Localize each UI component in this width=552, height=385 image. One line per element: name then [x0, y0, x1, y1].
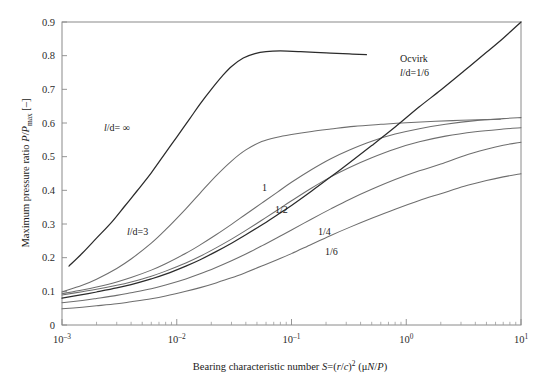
- y-tick-label-2: 0.2: [42, 252, 55, 263]
- curve-series-6: [62, 174, 521, 309]
- curve-series-5: [62, 142, 521, 303]
- curve-series-3: [62, 128, 521, 295]
- y-tick-label-8: 0.8: [42, 50, 55, 61]
- ann-1: 1: [262, 182, 267, 193]
- chart-canvas: 00.10.20.30.40.50.60.70.80.910–310–210–1…: [0, 0, 552, 385]
- ann-1-4: 1/4: [318, 226, 331, 237]
- y-tick-label-4: 0.4: [42, 185, 56, 196]
- ann-1-6: 1/6: [325, 246, 338, 257]
- x-tick-label-3: 100: [399, 332, 414, 346]
- curves-group: [62, 22, 521, 309]
- x-tick-label-4: 101: [514, 332, 529, 346]
- ann-1-2: 1/2: [275, 204, 288, 215]
- y-tick-label-3: 0.3: [42, 219, 55, 230]
- y-tick-label-9: 0.9: [42, 17, 55, 28]
- figure-container: 00.10.20.30.40.50.60.70.80.910–310–210–1…: [0, 0, 552, 385]
- y-tick-label-6: 0.6: [42, 118, 55, 129]
- ann-ocvirk: Ocvirk: [400, 53, 428, 64]
- y-axis-title: Maximum pressure ratio P/Pmax [–]: [20, 98, 34, 247]
- ann-ld-3: l/d=3: [127, 226, 148, 237]
- x-tick-label-0: 10–3: [53, 332, 71, 346]
- y-tick-label-0: 0: [50, 320, 55, 331]
- ann-ld-inf: l/d= ∞: [104, 122, 130, 133]
- ann-ocvirk-ld: l/d=1/6: [400, 67, 429, 78]
- x-tick-label-2: 10–1: [283, 332, 301, 346]
- curve-annotations-group: l/d= ∞l/d=3Ocvirkl/d=1/611/21/41/6: [104, 53, 429, 257]
- y-tick-label-7: 0.7: [42, 84, 55, 95]
- x-tick-label-1: 10–2: [168, 332, 186, 346]
- y-tick-label-5: 0.5: [42, 151, 55, 162]
- x-axis-title: Bearing characteristic number S=(r/c)2 (…: [193, 359, 388, 373]
- plot-frame: [62, 22, 521, 325]
- axes-group: [62, 22, 521, 325]
- y-tick-label-1: 0.1: [42, 286, 55, 297]
